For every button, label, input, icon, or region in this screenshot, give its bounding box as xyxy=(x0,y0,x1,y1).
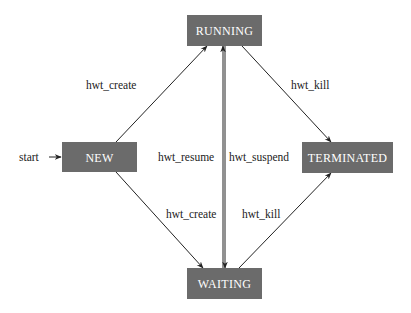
transition-waiting-running: hwt_resume xyxy=(158,46,223,268)
edge-running-to-terminated xyxy=(242,46,331,142)
transition-waiting-terminated: hwt_kill xyxy=(239,173,331,268)
state-running: RUNNING xyxy=(187,15,262,46)
transition-new-running: hwt_create xyxy=(86,46,207,142)
edge-label-waiting-terminated: hwt_kill xyxy=(242,208,280,220)
state-label-terminated: TERMINATED xyxy=(308,151,388,165)
transition-running-terminated: hwt_kill xyxy=(242,46,331,142)
edge-waiting-to-terminated xyxy=(239,173,331,268)
state-waiting: WAITING xyxy=(187,268,262,299)
edge-label-running-waiting: hwt_suspend xyxy=(229,151,289,164)
start-label: start xyxy=(19,151,40,163)
edge-new-to-running xyxy=(116,46,207,142)
state-label-waiting: WAITING xyxy=(198,277,251,291)
state-label-new: NEW xyxy=(85,151,114,165)
state-label-running: RUNNING xyxy=(196,24,253,38)
edge-new-to-waiting xyxy=(116,172,203,268)
transition-running-waiting: hwt_suspend xyxy=(225,46,289,268)
start-indicator: start xyxy=(19,151,61,163)
edge-label-running-terminated: hwt_kill xyxy=(291,79,329,91)
state-new: NEW xyxy=(62,142,137,172)
edge-label-new-running: hwt_create xyxy=(86,79,136,91)
transition-new-waiting: hwt_create xyxy=(116,172,216,268)
edge-label-waiting-running: hwt_resume xyxy=(158,151,214,163)
state-diagram: start hwt_create hwt_kill hwt_resume hwt… xyxy=(0,0,411,313)
edge-label-new-waiting: hwt_create xyxy=(166,208,216,220)
state-terminated: TERMINATED xyxy=(302,142,393,173)
